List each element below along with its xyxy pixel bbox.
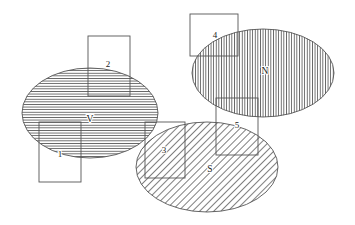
rectangle-label-3: 3 xyxy=(162,145,167,155)
venn-diagram-canvas: V N S 1 2 3 4 5 xyxy=(0,0,355,225)
ellipse-label-n: N xyxy=(262,66,269,76)
ellipse-v[interactable] xyxy=(22,68,158,158)
rectangle-label-1: 1 xyxy=(58,149,63,159)
ellipse-group xyxy=(22,29,334,212)
ellipse-label-s: S xyxy=(207,164,212,174)
rectangle-label-5: 5 xyxy=(235,120,240,130)
ellipse-label-v: V xyxy=(87,114,94,124)
ellipse-v-fill xyxy=(22,68,158,158)
rectangle-label-4: 4 xyxy=(213,30,218,40)
diagram-svg: V N S 1 2 3 4 5 xyxy=(0,0,355,225)
rectangle-label-2: 2 xyxy=(106,59,111,69)
